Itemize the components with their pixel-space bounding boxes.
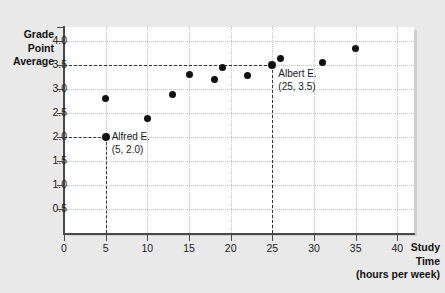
y-axis-tick-label: 1.5 (52, 154, 67, 166)
grid-line-horizontal (64, 113, 414, 115)
x-axis-tick (147, 235, 148, 241)
grid-line-horizontal (64, 41, 414, 43)
x-axis-title-line-1: Study (275, 241, 440, 255)
y-axis-tick-label: 2.0 (52, 130, 67, 142)
grid-line-vertical (314, 27, 316, 233)
x-axis-tick (64, 235, 65, 241)
data-point (277, 55, 284, 62)
y-axis-title: Grade Point Average (0, 28, 54, 69)
x-axis-tick-label: 15 (169, 242, 209, 254)
data-point (144, 115, 151, 122)
y-axis-tick (57, 27, 64, 28)
x-axis-title-line-2: Time (275, 255, 440, 269)
annotation-albert-coords: (25, 3.5) (278, 80, 316, 93)
y-axis-tick-label: 0.5 (52, 202, 67, 214)
x-axis-tick-label: 0 (44, 242, 84, 254)
x-axis-tick (272, 235, 273, 241)
x-axis-line (63, 233, 415, 235)
data-point (211, 76, 218, 83)
annotation-alfred: Alfred E. (5, 2.0) (112, 130, 150, 156)
grid-line-horizontal (64, 89, 414, 91)
x-axis-tick-label: 10 (127, 242, 167, 254)
x-axis-title: Study Time (hours per week) (275, 241, 440, 282)
y-axis-tick-label: 4.0 (52, 34, 67, 46)
y-axis-tick-label: 3.5 (52, 58, 67, 70)
y-axis-title-line-1: Grade (0, 28, 54, 42)
scatter-plot-figure: 0.51.01.52.02.53.03.54.00510152025303540… (0, 0, 445, 293)
x-axis-tick (189, 235, 190, 241)
reference-line-horizontal (64, 65, 272, 66)
grid-line-vertical (397, 27, 399, 233)
x-axis-tick-label: 5 (86, 242, 126, 254)
annotation-alfred-coords: (5, 2.0) (112, 143, 150, 156)
grid-line-vertical (189, 27, 191, 233)
annotation-alfred-name: Alfred E. (112, 130, 150, 143)
annotation-albert: Albert E. (25, 3.5) (278, 67, 316, 93)
y-axis-title-line-3: Average (0, 55, 54, 69)
y-axis-title-line-2: Point (0, 42, 54, 56)
x-axis-tick (106, 235, 107, 241)
y-axis-tick-label: 3.0 (52, 82, 67, 94)
grid-line-horizontal (64, 185, 414, 187)
reference-line-horizontal (64, 137, 106, 138)
data-point-labeled (102, 133, 110, 141)
grid-line-vertical (356, 27, 358, 233)
x-axis-title-line-3: (hours per week) (275, 268, 440, 282)
grid-line-vertical (231, 27, 233, 233)
grid-line-horizontal (64, 161, 414, 163)
grid-line-horizontal (64, 209, 414, 211)
data-point (186, 71, 193, 78)
reference-line-vertical (106, 137, 107, 233)
y-axis-tick-label: 1.0 (52, 178, 67, 190)
data-point (219, 64, 226, 71)
reference-line-vertical (272, 65, 273, 233)
x-axis-tick (231, 235, 232, 241)
x-axis-tick-label: 20 (211, 242, 251, 254)
y-axis-tick-label: 2.5 (52, 106, 67, 118)
annotation-albert-name: Albert E. (278, 67, 316, 80)
data-point (169, 91, 176, 98)
